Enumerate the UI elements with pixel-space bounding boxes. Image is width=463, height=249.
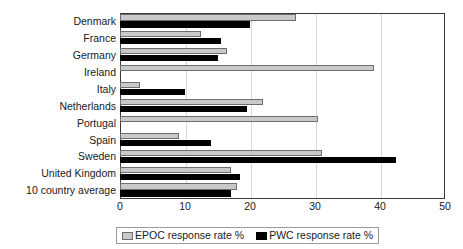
legend-entry: PWC response rate % (256, 230, 373, 241)
bar-group (120, 81, 445, 98)
legend-swatch-pwc-icon (256, 232, 267, 240)
y-axis-tick-label: 10 country average (26, 185, 116, 196)
legend-swatch-epoc-icon (122, 232, 133, 240)
y-axis-tick-7: Spain (0, 131, 116, 148)
bar-pwc (120, 38, 221, 44)
legend-label: EPOC response rate % (135, 230, 244, 241)
x-axis-tick-label: 20 (244, 201, 256, 212)
bar-group (120, 165, 445, 182)
bar-epoc (120, 48, 227, 54)
y-axis-tick-2: Germany (0, 47, 116, 64)
y-axis-tick-label: Italy (97, 84, 116, 95)
bar-epoc (120, 82, 140, 88)
bar-epoc (120, 31, 201, 37)
bar-epoc (120, 167, 231, 173)
bar-group (120, 30, 445, 47)
bar-group (120, 182, 445, 199)
x-axis-tick-label: 30 (309, 201, 321, 212)
bar-epoc (120, 150, 322, 156)
y-axis-tick-8: Sweden (0, 148, 116, 165)
bar-group (120, 64, 445, 81)
bar-pwc (120, 21, 250, 27)
bar-pwc (120, 174, 240, 180)
bar-pwc (120, 89, 185, 95)
bar-group (120, 98, 445, 115)
bar-group (120, 131, 445, 148)
x-axis-tick-label: 40 (374, 201, 386, 212)
bar-group (120, 114, 445, 131)
bar-pwc (120, 106, 247, 112)
x-axis-labels: 01020304050 (120, 201, 445, 217)
bar-epoc (120, 183, 237, 189)
bar-epoc (120, 65, 374, 71)
y-axis-tick-1: France (0, 30, 116, 47)
y-axis-tick-0: Denmark (0, 13, 116, 30)
bar-epoc (120, 14, 296, 20)
y-axis-tick-5: Netherlands (0, 98, 116, 115)
bar-epoc (120, 99, 263, 105)
y-axis-labels: DenmarkFranceGermanyIrelandItalyNetherla… (0, 13, 116, 199)
y-axis-tick-label: Ireland (84, 67, 116, 78)
y-axis-tick-label: Spain (89, 135, 116, 146)
x-axis-tick-label: 10 (179, 201, 191, 212)
bar-group (120, 13, 445, 30)
y-axis-tick-4: Italy (0, 81, 116, 98)
y-axis-tick-6: Portugal (0, 114, 116, 131)
y-axis-tick-label: Netherlands (59, 101, 116, 112)
bars-layer (120, 13, 445, 199)
y-axis-tick-label: Germany (73, 50, 116, 61)
bar-group (120, 148, 445, 165)
bar-epoc (120, 133, 179, 139)
bar-pwc (120, 190, 231, 196)
x-axis-tick-label: 50 (439, 201, 451, 212)
bar-group (120, 47, 445, 64)
legend-label: PWC response rate % (269, 230, 373, 241)
bar-pwc (120, 157, 396, 163)
x-axis-tick-label: 0 (117, 201, 123, 212)
y-axis-tick-label: Sweden (78, 151, 116, 162)
y-axis-tick-3: Ireland (0, 64, 116, 81)
bar-pwc (120, 55, 218, 61)
y-axis-tick-10: 10 country average (0, 182, 116, 199)
y-axis-tick-label: United Kingdom (41, 168, 116, 179)
chart-legend: EPOC response rate %PWC response rate % (116, 227, 379, 244)
y-axis-tick-label: France (83, 33, 116, 44)
top-faint-text (0, 0, 463, 10)
legend-entry: EPOC response rate % (122, 230, 244, 241)
y-axis-tick-9: United Kingdom (0, 165, 116, 182)
bar-chart: DenmarkFranceGermanyIrelandItalyNetherla… (0, 0, 463, 249)
y-axis-tick-label: Portugal (77, 118, 116, 129)
y-axis-tick-label: Denmark (73, 16, 116, 27)
bar-epoc (120, 116, 318, 122)
bar-pwc (120, 140, 211, 146)
